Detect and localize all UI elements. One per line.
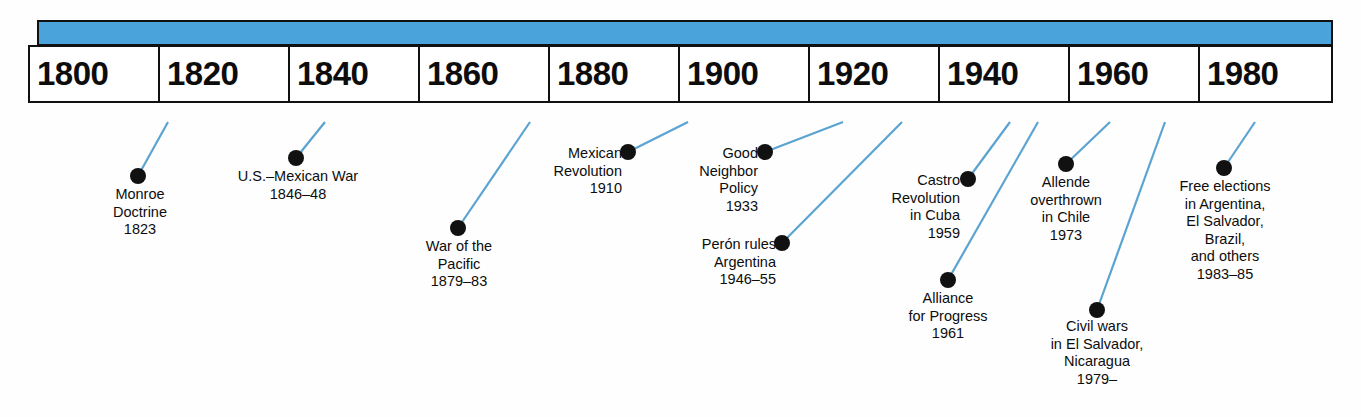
leader-line-war-of-the-pacific [458,122,530,228]
year-cell-1960: 1960 [1070,47,1200,101]
event-dot-castro-revolution-cuba [960,171,976,187]
event-label-civil-wars-el-salvador-nicaragua: Civil wars in El Salvador, Nicaragua 197… [1030,318,1164,388]
event-label-mexican-revolution: Mexican Revolution 1910 [530,145,622,198]
year-cell-1800: 1800 [30,47,160,101]
event-label-monroe-doctrine: Monroe Doctrine 1823 [90,186,190,239]
event-dot-allende-overthrown-chile [1058,156,1074,172]
year-cell-1920: 1920 [810,47,940,101]
event-dot-monroe-doctrine [130,168,146,184]
leader-line-free-elections [1224,122,1255,168]
event-dot-alliance-for-progress [940,272,956,288]
event-dot-free-elections [1216,160,1232,176]
event-label-castro-revolution-cuba: Castro Revolution in Cuba 1959 [868,172,960,242]
leader-line-monroe-doctrine [138,122,168,176]
event-dot-war-of-the-pacific [450,220,466,236]
event-label-peron-rules-argentina: Perón rules Argentina 1946–55 [666,236,776,289]
event-dot-civil-wars-el-salvador-nicaragua [1089,302,1105,318]
year-cell-1860: 1860 [420,47,550,101]
event-dot-good-neighbor-policy [757,144,773,160]
event-label-good-neighbor-policy: Good Neighbor Policy 1933 [666,145,758,215]
year-cell-1900: 1900 [680,47,810,101]
year-cell-1820: 1820 [160,47,290,101]
leader-line-castro-revolution-cuba [968,122,1010,179]
year-cell-1940: 1940 [940,47,1070,101]
event-dot-mexican-revolution [620,144,636,160]
event-dot-us-mexican-war [288,150,304,166]
event-label-war-of-the-pacific: War of the Pacific 1879–83 [400,238,518,291]
year-cell-1880: 1880 [550,47,680,101]
timeline-scale: 1800182018401860188019001920194019601980 [28,20,1333,103]
event-label-alliance-for-progress: Alliance for Progress 1961 [884,290,1012,343]
timeline-accent-bar [37,20,1333,46]
event-label-us-mexican-war: U.S.–Mexican War 1846–48 [208,168,388,203]
year-cell-1840: 1840 [290,47,420,101]
year-cell-1980: 1980 [1200,47,1331,101]
event-label-allende-overthrown-chile: Allende overthrown in Chile 1973 [1008,174,1124,244]
event-dot-peron-rules-argentina [774,235,790,251]
leader-line-allende-overthrown-chile [1066,122,1110,164]
leader-line-us-mexican-war [296,122,325,158]
timeline-graphic: 1800182018401860188019001920194019601980… [0,0,1361,417]
leader-line-good-neighbor-policy [765,122,843,152]
timeline-year-row: 1800182018401860188019001920194019601980 [28,45,1333,103]
event-label-free-elections: Free elections in Argentina, El Salvador… [1157,178,1293,283]
